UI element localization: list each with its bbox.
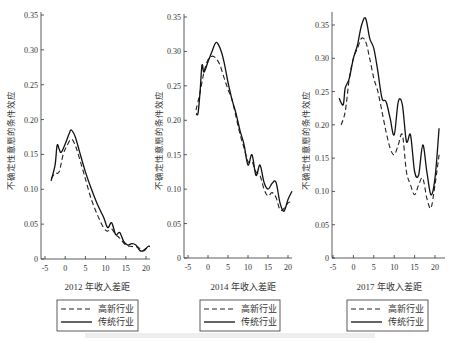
series-traditional-line xyxy=(196,42,292,211)
legend: 高新行业 传统行业 xyxy=(200,300,280,331)
plot-area: 00.050.100.150.200.250.300.35-505101520 xyxy=(315,12,445,272)
y-tick-label: 0.35 xyxy=(315,21,329,30)
y-tick-label: 0.20 xyxy=(24,116,38,125)
x-tick-label: 5 xyxy=(83,264,87,273)
panel-2014: 00.050.100.150.200.250.300.35-505101520 … xyxy=(154,13,292,331)
y-tick-label: 0.25 xyxy=(24,81,38,90)
y-tick-label: 0.35 xyxy=(167,13,181,22)
y-tick-label: 0.20 xyxy=(167,116,181,125)
y-tick-label: 0.05 xyxy=(24,220,38,229)
x-tick-label: 10 xyxy=(244,263,252,272)
x-tick-label: 0 xyxy=(206,263,210,272)
y-tick-label: 0 xyxy=(177,254,181,263)
plot-area: 00.050.100.150.200.250.300.35-505101520 xyxy=(24,11,150,273)
y-tick-label: 0.05 xyxy=(167,220,181,229)
legend-label-hightech: 高新行业 xyxy=(388,303,424,314)
x-axis-label: 2014 年收入差距 xyxy=(210,281,275,292)
y-tick-label: 0.10 xyxy=(24,185,38,194)
x-tick-label: 0 xyxy=(63,264,67,273)
y-tick-label: 0.25 xyxy=(315,88,329,97)
figure-caption-faded xyxy=(85,333,375,338)
legend-label-traditional: 传统行业 xyxy=(98,316,134,327)
x-tick-label: -5 xyxy=(42,264,49,273)
series-hightech-line xyxy=(51,139,150,251)
y-tick-label: 0.30 xyxy=(315,54,329,63)
panel-2012: 00.050.100.150.200.250.300.35-505101520 … xyxy=(6,11,150,331)
x-tick-label: -5 xyxy=(185,263,192,272)
y-axis-label: 不确定性意愿的条件效应 xyxy=(301,91,311,190)
y-tick-label: 0.15 xyxy=(167,151,181,160)
y-tick-label: 0.30 xyxy=(24,46,38,55)
y-tick-label: 0.35 xyxy=(24,11,38,20)
x-tick-label: 5 xyxy=(372,263,376,272)
y-tick-label: 0.10 xyxy=(315,187,329,196)
legend: 高新行业 传统行业 xyxy=(347,300,428,331)
y-tick-label: 0 xyxy=(34,255,38,264)
legend: 高新行业 传统行业 xyxy=(57,300,138,331)
y-tick-label: 0.30 xyxy=(167,47,181,56)
y-axis-label: 不确定性意愿的条件效应 xyxy=(154,91,164,190)
x-tick-label: -5 xyxy=(330,263,337,272)
y-tick-label: 0.15 xyxy=(24,150,38,159)
y-tick-label: 0.15 xyxy=(315,154,329,163)
legend-label-hightech: 高新行业 xyxy=(241,303,277,314)
x-tick-label: 10 xyxy=(390,263,398,272)
panel-2017: 00.050.100.150.200.250.300.35-505101520 … xyxy=(301,12,445,331)
series-hightech-line xyxy=(341,38,439,209)
x-tick-label: 0 xyxy=(351,263,355,272)
x-axis-label: 2012 年收入差距 xyxy=(64,281,129,292)
y-tick-label: 0.05 xyxy=(315,221,329,230)
x-tick-label: 5 xyxy=(226,263,230,272)
legend-label-traditional: 传统行业 xyxy=(241,316,277,327)
chart-figure: 00.050.100.150.200.250.300.35-505101520 … xyxy=(0,0,455,341)
x-tick-label: 10 xyxy=(102,264,110,273)
x-tick-label: 15 xyxy=(411,263,419,272)
y-axis-label: 不确定性意愿的条件效应 xyxy=(6,91,16,190)
x-tick-label: 20 xyxy=(431,263,439,272)
legend-label-traditional: 传统行业 xyxy=(388,316,424,327)
y-tick-label: 0 xyxy=(325,254,329,263)
plot-area: 00.050.100.150.200.250.300.35-505101520 xyxy=(167,13,292,272)
y-tick-label: 0.10 xyxy=(167,185,181,194)
series-traditional-line xyxy=(339,18,439,195)
y-tick-label: 0.25 xyxy=(167,82,181,91)
x-tick-label: 15 xyxy=(264,263,272,272)
x-tick-label: 20 xyxy=(284,263,292,272)
y-tick-label: 0.20 xyxy=(315,121,329,130)
x-tick-label: 20 xyxy=(142,264,150,273)
legend-label-hightech: 高新行业 xyxy=(98,303,134,314)
x-tick-label: 15 xyxy=(122,264,130,273)
x-axis-label: 2017 年收入差距 xyxy=(356,281,421,292)
